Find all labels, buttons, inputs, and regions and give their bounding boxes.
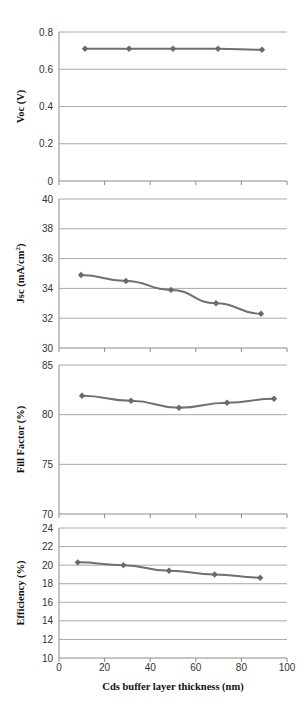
x-tick-label: 20 — [99, 662, 111, 673]
y-tick-label: 0.2 — [39, 138, 53, 149]
data-point-diamond — [257, 574, 263, 580]
data-point-diamond — [120, 562, 126, 568]
data-point-diamond — [126, 46, 132, 52]
y-tick-label: 80 — [42, 409, 54, 420]
data-point-diamond — [258, 311, 264, 317]
y-tick-label: 10 — [42, 653, 54, 664]
y-tick-label: 18 — [42, 578, 54, 589]
data-point-diamond — [79, 393, 85, 399]
data-point-diamond — [78, 272, 84, 278]
x-tick-label: 0 — [56, 662, 62, 673]
y-axis-label: Jsc (mA/cm2) — [14, 243, 27, 303]
y-tick-label: 0.8 — [39, 27, 53, 38]
chart-panel-eff: 1012141618202224Efficiency (%)0204060801… — [15, 523, 296, 694]
data-point-diamond — [168, 287, 174, 293]
y-axis-label: Efficiency (%) — [15, 560, 27, 626]
x-tick-label: 80 — [236, 662, 248, 673]
y-tick-label: 16 — [42, 597, 54, 608]
y-tick-label: 20 — [42, 560, 54, 571]
chart-panel-ff: 70758085Fill Factor (%) — [15, 360, 287, 520]
data-point-diamond — [271, 396, 277, 402]
data-point-diamond — [170, 46, 176, 52]
y-tick-label: 22 — [42, 541, 54, 552]
chart-panel-jsc: 303234363840Jsc (mA/cm2) — [14, 194, 287, 354]
data-point-diamond — [211, 571, 217, 577]
data-point-diamond — [82, 46, 88, 52]
data-point-diamond — [224, 400, 230, 406]
y-tick-label: 30 — [42, 343, 54, 354]
y-axis-label: Fill Factor (%) — [15, 405, 27, 473]
y-tick-label: 75 — [42, 459, 54, 470]
y-axis-label: Voc (V) — [15, 89, 27, 123]
y-tick-label: 0 — [47, 176, 53, 187]
y-tick-label: 36 — [42, 253, 54, 264]
y-tick-label: 40 — [42, 194, 54, 205]
data-point-diamond — [75, 559, 81, 565]
y-tick-label: 70 — [42, 509, 54, 520]
data-point-diamond — [123, 278, 129, 284]
x-axis-label: Cds buffer layer thickness (nm) — [102, 681, 244, 693]
y-tick-label: 38 — [42, 223, 54, 234]
y-tick-label: 0.6 — [39, 64, 53, 75]
y-tick-label: 0.4 — [39, 101, 53, 112]
data-point-diamond — [176, 405, 182, 411]
data-point-diamond — [215, 46, 221, 52]
series-line-jsc — [81, 275, 261, 314]
y-tick-label: 12 — [42, 634, 54, 645]
y-tick-label: 14 — [42, 615, 54, 626]
data-point-diamond — [128, 398, 134, 404]
data-point-diamond — [213, 300, 219, 306]
chart-panel-voc: 00.20.40.60.8Voc (V) — [15, 27, 287, 187]
x-tick-label: 100 — [279, 662, 296, 673]
y-tick-label: 34 — [42, 283, 54, 294]
x-tick-label: 60 — [190, 662, 202, 673]
y-tick-label: 32 — [42, 313, 54, 324]
y-tick-label: 85 — [42, 360, 54, 371]
x-tick-label: 40 — [145, 662, 157, 673]
stacked-line-charts: 00.20.40.60.8Voc (V)303234363840Jsc (mA/… — [0, 0, 307, 717]
data-point-diamond — [166, 568, 172, 574]
y-tick-label: 24 — [42, 523, 54, 534]
data-point-diamond — [259, 46, 265, 52]
